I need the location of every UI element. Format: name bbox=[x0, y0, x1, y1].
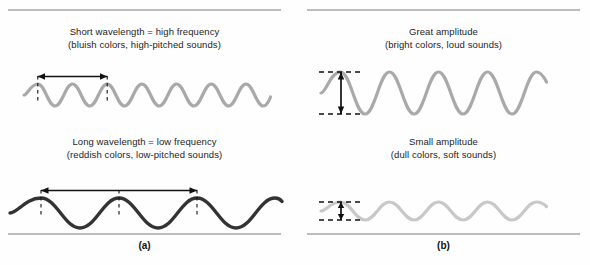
long-wavelength-caption: Long wavelength = low frequency (reddish… bbox=[2, 136, 287, 161]
panel-b: Great amplitude (bright colors, loud sou… bbox=[301, 0, 586, 265]
short-wavelength-caption-line1: Short wavelength = high frequency bbox=[2, 26, 287, 39]
small-amplitude-wave-area bbox=[301, 165, 586, 245]
short-wavelength-wave-path bbox=[24, 84, 271, 106]
short-wavelength-caption-line2: (bluish colors, high-pitched sounds) bbox=[2, 39, 287, 52]
long-wavelength-wave-path bbox=[10, 198, 282, 228]
panel-a: Short wavelength = high frequency (bluis… bbox=[2, 0, 287, 265]
great-amplitude-wave-path bbox=[321, 72, 547, 114]
panel-b-top-rule bbox=[307, 9, 580, 11]
great-amplitude-caption: Great amplitude (bright colors, loud sou… bbox=[301, 26, 586, 51]
wavelength-arrowhead-right bbox=[100, 73, 107, 79]
long-wavelength-wave-area bbox=[2, 165, 287, 245]
great-amplitude-arrowhead-bottom bbox=[338, 107, 344, 115]
small-amplitude-arrowhead-bottom bbox=[338, 214, 344, 220]
long-wavelength-arrowhead-right bbox=[190, 187, 198, 194]
wave-properties-figure: Short wavelength = high frequency (bluis… bbox=[0, 0, 590, 265]
small-amplitude-wave-path bbox=[321, 202, 547, 220]
great-amplitude-caption-line1: Great amplitude bbox=[301, 26, 586, 39]
great-amplitude-wave-area bbox=[301, 55, 586, 135]
short-wavelength-caption: Short wavelength = high frequency (bluis… bbox=[2, 26, 287, 51]
small-amplitude-caption-line1: Small amplitude bbox=[301, 136, 586, 149]
short-wavelength-wave-area bbox=[2, 55, 287, 135]
long-wavelength-caption-line2: (reddish colors, low-pitched sounds) bbox=[2, 149, 287, 162]
great-amplitude-caption-line2: (bright colors, loud sounds) bbox=[301, 39, 586, 52]
panel-b-label: (b) bbox=[301, 240, 586, 251]
panel-a-label: (a) bbox=[2, 240, 287, 251]
long-wavelength-caption-line1: Long wavelength = low frequency bbox=[2, 136, 287, 149]
panel-a-top-rule bbox=[8, 9, 281, 11]
long-wavelength-arrowhead-left bbox=[41, 187, 49, 194]
small-amplitude-caption-line2: (dull colors, soft sounds) bbox=[301, 149, 586, 162]
wavelength-arrowhead-left bbox=[38, 73, 45, 79]
small-amplitude-caption: Small amplitude (dull colors, soft sound… bbox=[301, 136, 586, 161]
